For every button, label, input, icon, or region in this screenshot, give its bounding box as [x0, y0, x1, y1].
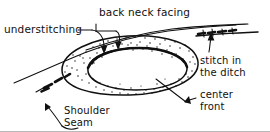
diagram-canvas: understitching back neck facing stitch i… — [0, 0, 270, 132]
label-shoulder-seam-line2: Seam — [64, 117, 93, 128]
garment-secondary-edge — [86, 24, 248, 50]
label-stitch-in-the-ditch-line1: stitch in — [200, 55, 241, 66]
facing-outer-outline — [62, 36, 198, 95]
ditch-stitch-dashes — [198, 28, 236, 37]
label-center-front-line2: front — [200, 101, 225, 112]
label-center-front-line1: center — [200, 89, 234, 100]
sewing-diagram-figure: understitching back neck facing stitch i… — [0, 0, 270, 132]
label-stitch-in-the-ditch-line2: the ditch — [200, 67, 246, 78]
stipple-stray — [164, 78, 165, 79]
shoulder-seam-dashes — [36, 74, 70, 93]
stippled-facing-band — [62, 36, 198, 95]
label-shoulder-seam-line1: Shoulder — [64, 105, 110, 116]
stipple-stray — [140, 85, 141, 86]
label-back-neck-facing: back neck facing — [99, 6, 190, 18]
stipple-stray — [119, 83, 120, 84]
label-understitching: understitching — [4, 23, 82, 35]
